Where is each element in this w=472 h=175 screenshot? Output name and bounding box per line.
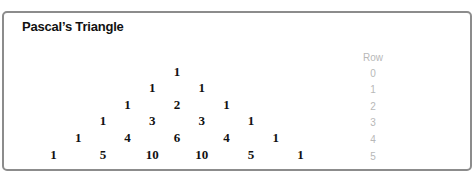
triangle-entry: 6 bbox=[174, 130, 181, 146]
triangle-entry: 4 bbox=[223, 130, 230, 146]
row-header: Row bbox=[363, 52, 383, 63]
triangle-entry: 3 bbox=[149, 113, 156, 129]
row-label: 1 bbox=[370, 84, 376, 95]
triangle-entry: 1 bbox=[149, 80, 156, 96]
card-title: Pascal’s Triangle bbox=[22, 19, 124, 34]
triangle-entry: 1 bbox=[100, 113, 107, 129]
row-label: 4 bbox=[370, 134, 376, 145]
pascal-triangle-card bbox=[2, 11, 472, 171]
triangle-entry: 1 bbox=[273, 130, 280, 146]
row-label: 2 bbox=[370, 101, 376, 112]
triangle-entry: 1 bbox=[75, 130, 82, 146]
triangle-entry: 4 bbox=[124, 130, 131, 146]
triangle-entry: 1 bbox=[297, 147, 304, 163]
triangle-entry: 1 bbox=[174, 64, 181, 80]
row-label: 0 bbox=[370, 68, 376, 79]
triangle-entry: 10 bbox=[195, 147, 208, 163]
triangle-entry: 2 bbox=[174, 97, 181, 113]
row-label: 5 bbox=[370, 151, 376, 162]
triangle-entry: 5 bbox=[100, 147, 107, 163]
triangle-entry: 5 bbox=[248, 147, 255, 163]
row-label: 3 bbox=[370, 117, 376, 128]
triangle-entry: 1 bbox=[124, 97, 131, 113]
triangle-entry: 10 bbox=[146, 147, 159, 163]
triangle-entry: 1 bbox=[198, 80, 205, 96]
triangle-entry: 1 bbox=[50, 147, 57, 163]
triangle-entry: 1 bbox=[248, 113, 255, 129]
triangle-entry: 3 bbox=[198, 113, 205, 129]
triangle-entry: 1 bbox=[223, 97, 230, 113]
